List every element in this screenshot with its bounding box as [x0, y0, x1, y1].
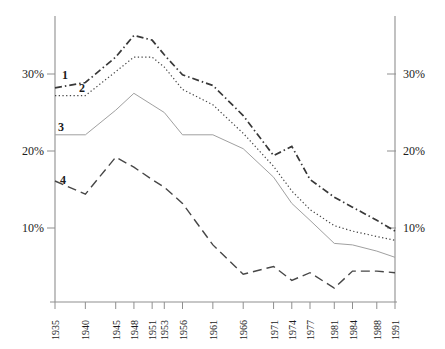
- y-tick-label-left: 20%: [22, 144, 44, 158]
- series-4-label: 4: [60, 173, 66, 187]
- x-tick-label: 1984: [348, 320, 359, 340]
- x-tick-label: 1991: [390, 320, 401, 340]
- x-tick-label: 1940: [80, 320, 91, 340]
- y-tick-label-right: 20%: [403, 144, 425, 158]
- x-tick-label: 1974: [287, 320, 298, 340]
- series-3-label: 3: [58, 120, 64, 134]
- y-tick-label-left: 30%: [22, 67, 44, 81]
- x-tick-label: 1966: [238, 320, 249, 340]
- figure-background: [0, 0, 445, 349]
- chart-canvas: 30%30%20%20%10%10%1935194019451948195119…: [0, 0, 445, 349]
- x-tick-label: 1988: [372, 320, 383, 340]
- x-tick-label: 1971: [269, 320, 280, 340]
- x-tick-label: 1945: [111, 320, 122, 340]
- y-tick-label-right: 10%: [403, 221, 425, 235]
- x-tick-label: 1948: [129, 320, 140, 340]
- x-tick-label: 1981: [329, 320, 340, 340]
- x-tick-label: 1953: [159, 320, 170, 340]
- series-1-label: 1: [62, 68, 68, 82]
- y-tick-label-left: 10%: [22, 221, 44, 235]
- x-tick-label: 1935: [50, 320, 61, 340]
- x-tick-label: 1951: [147, 320, 158, 340]
- y-tick-label-right: 30%: [403, 67, 425, 81]
- series-2-label: 2: [79, 81, 85, 95]
- x-tick-label: 1961: [208, 320, 219, 340]
- x-tick-label: 1977: [305, 320, 316, 340]
- line-chart-figure: 30%30%20%20%10%10%1935194019451948195119…: [0, 0, 445, 349]
- x-tick-label: 1956: [178, 320, 189, 340]
